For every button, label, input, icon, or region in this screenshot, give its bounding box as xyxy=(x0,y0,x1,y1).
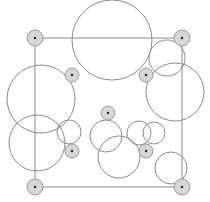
marker-center-dot-icon xyxy=(34,186,36,188)
marker-center-dot-icon xyxy=(71,74,73,76)
marker-center-dot-icon xyxy=(71,150,73,152)
circle-right-large xyxy=(146,63,204,121)
circle-mid-right-b xyxy=(143,122,165,144)
marker-inner-top-right xyxy=(139,68,153,82)
marker-inner-bottom-right xyxy=(139,144,153,158)
marker-center-dot-icon xyxy=(145,74,147,76)
marker-corner-bottom-left xyxy=(27,179,43,195)
marker-center-dot-icon xyxy=(181,37,183,39)
marker-center-dot-icon xyxy=(107,112,109,114)
marker-center-dot-icon xyxy=(145,150,147,152)
marker-center xyxy=(101,106,115,120)
marker-points xyxy=(27,30,190,195)
diagram-canvas xyxy=(0,0,210,202)
marker-inner-top-left xyxy=(65,68,79,82)
outline-circles xyxy=(7,0,204,184)
marker-corner-top-right xyxy=(174,30,190,46)
circle-top-large xyxy=(72,0,152,80)
marker-corner-top-left xyxy=(27,30,43,46)
circle-left-lower xyxy=(9,115,65,171)
circle-center-lower xyxy=(98,136,140,178)
marker-center-dot-icon xyxy=(34,37,36,39)
marker-center-dot-icon xyxy=(181,186,183,188)
circle-left-small xyxy=(57,120,81,144)
marker-inner-bottom-left xyxy=(65,144,79,158)
marker-corner-bottom-right xyxy=(174,179,190,195)
